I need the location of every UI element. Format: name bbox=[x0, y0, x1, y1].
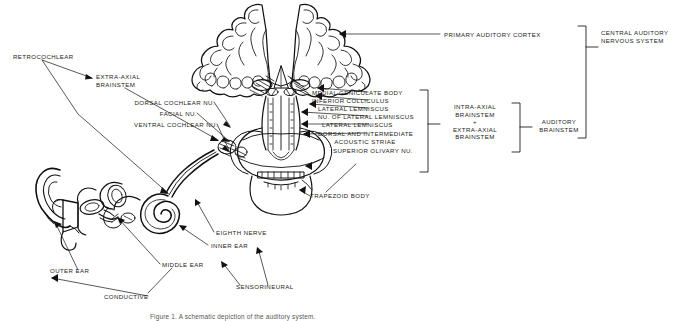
figure-caption: Figure 1. A schematic depiction of the a… bbox=[150, 313, 316, 320]
label-dorsal-cochlear-nu: DORSAL COCHLEAR NU. bbox=[60, 99, 215, 107]
label-inner-ear: INNER EAR bbox=[211, 242, 248, 250]
auditory-pathways bbox=[268, 96, 294, 160]
label-acoustic-striae: ACOUSTIC STRIAE bbox=[312, 138, 418, 146]
label-primary-auditory-cortex: PRIMARY AUDITORY CORTEX bbox=[444, 31, 541, 39]
label-outer-ear: OUTER EAR bbox=[50, 267, 89, 275]
eighth-nerve-bundle bbox=[166, 150, 218, 197]
label-lateral-lemniscus-lower: LATERAL LEMNISCUS bbox=[322, 121, 393, 129]
label-medial-geniculate-body: MEDIAL GENICULATE BODY bbox=[312, 89, 403, 97]
grouping-brackets bbox=[420, 26, 598, 172]
label-facial-nu: FACIAL NU. bbox=[60, 110, 197, 118]
label-superior-olivary-nu: SUPERIOR OLIVARY NU. bbox=[320, 147, 426, 155]
leader-lines bbox=[42, 30, 440, 296]
left-cerebral-hemisphere bbox=[192, 4, 271, 96]
label-retrocochlear: RETROCOCHLEAR bbox=[13, 53, 74, 61]
anatomical-line-art bbox=[0, 0, 695, 321]
label-extra-axial-brainstem: EXTRA-AXIAL BRAINSTEM bbox=[96, 73, 140, 88]
label-intra-extra-axial-brainstem: INTRA-AXIAL BRAINSTEM + EXTRA-AXIAL BRAI… bbox=[437, 103, 513, 141]
label-ventral-cochlear-nu: VENTRAL COCHLEAR NU. bbox=[60, 121, 218, 129]
label-trapezoid-body: TRAPEZOID BODY bbox=[310, 192, 370, 200]
label-middle-ear: MIDDLE EAR bbox=[162, 261, 203, 269]
label-inferior-colliculus: INFERIOR COLLICULUS bbox=[312, 97, 389, 105]
outer-ear-pinna bbox=[36, 168, 79, 250]
right-cerebral-hemisphere bbox=[292, 4, 371, 96]
label-auditory-brainstem: AUDITORY BRAINSTEM bbox=[530, 118, 588, 133]
label-central-auditory-nervous-system: CENTRAL AUDITORY NERVOUS SYSTEM bbox=[601, 29, 669, 44]
label-sensorineural: SENSORINEURAL bbox=[236, 283, 294, 291]
label-lateral-lemniscus-upper: LATERAL LEMNISCUS bbox=[318, 105, 389, 113]
label-conductive: CONDUCTIVE bbox=[104, 293, 149, 301]
label-nu-of-lateral-lemniscus: NU. OF LATERAL LEMNISCUS bbox=[318, 113, 414, 121]
label-dorsal-and-intermediate: DORSAL AND INTERMEDIATE bbox=[318, 130, 413, 138]
figure-canvas: RETROCOCHLEAR EXTRA-AXIAL BRAINSTEM DORS… bbox=[0, 0, 695, 321]
label-eighth-nerve: EIGHTH NERVE bbox=[216, 229, 267, 237]
